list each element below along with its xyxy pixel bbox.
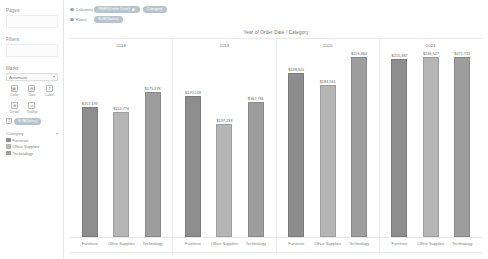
bar-2018-furniture[interactable] (82, 107, 98, 237)
rows-track[interactable]: SUM(Sales) (94, 16, 123, 23)
marks-label-button[interactable]: T Label (41, 84, 58, 98)
category-group-2019: FurnitureOffice SuppliesTechnology (173, 238, 276, 252)
legend-title-row: Category ▾ (6, 131, 58, 136)
pages-shelf[interactable]: Pages (6, 8, 58, 28)
columns-label: Columns (76, 7, 93, 12)
palette-icon: ▦ (11, 85, 18, 92)
pill-category[interactable]: Category (143, 6, 167, 13)
bar-value-label: $198,901 (288, 67, 304, 72)
marks-detail-label: Detail (10, 110, 19, 114)
worksheet-canvas: Columns YEAR(Order Date) Category Rows (64, 0, 488, 259)
bar-group-2021: $215,387$246,527$271,731 (380, 51, 482, 237)
marks-tooltip-button[interactable]: ▭ Tooltip (24, 101, 41, 115)
label-icon: T (46, 85, 53, 92)
pill-dropdown-icon[interactable] (132, 8, 135, 11)
marks-color-label: Color (10, 93, 19, 97)
bar-group-2020: $198,901$183,531$226,364 (277, 51, 380, 237)
year-header-2019: 2019 (173, 39, 276, 51)
marks-tooltip-label: Tooltip (27, 110, 37, 114)
bar-value-label: $162,781 (248, 96, 264, 101)
mark-type-dropdown[interactable]: Automatic ▾ (6, 73, 58, 81)
bar-wrap: $198,901 (281, 51, 312, 237)
legend-item-technology[interactable]: Technology (6, 151, 58, 156)
category-axis-row: FurnitureOffice SuppliesTechnologyFurnit… (70, 237, 482, 252)
bar-wrap: $246,527 (415, 51, 446, 237)
bar-value-label: $215,387 (392, 53, 408, 58)
marks-size-button[interactable]: ▤ Size (24, 84, 41, 98)
bars-area: $157,193$151,776$175,278$170,518$137,233… (70, 51, 482, 237)
bar-value-label: $183,531 (320, 79, 336, 84)
bar-value-label: $157,193 (82, 101, 98, 106)
bar-2021-furniture[interactable] (391, 59, 407, 237)
bar-value-label: $226,364 (351, 51, 367, 56)
bar-2021-office-supplies[interactable] (423, 57, 439, 237)
tooltip-icon: ▭ (28, 102, 35, 109)
bar-wrap: $157,193 (74, 51, 105, 237)
marks-label: Marks (6, 66, 58, 71)
marks-label-label: Label (45, 93, 54, 97)
bar-2019-technology[interactable] (248, 102, 264, 237)
category-tick-label: Furniture (74, 238, 105, 252)
columns-track[interactable]: YEAR(Order Date) Category (94, 6, 167, 13)
rows-shelf-name: Rows (70, 17, 90, 22)
bar-wrap: $183,531 (312, 51, 343, 237)
legend-item-office-supplies[interactable]: Office Supplies (6, 144, 58, 149)
bar-wrap: $226,364 (343, 51, 374, 237)
filters-shelf[interactable]: Filters (6, 37, 58, 57)
pill-year-order-date-text: YEAR(Order Date) (98, 7, 130, 12)
bar-value-label: $137,233 (216, 118, 232, 123)
legend-swatch (6, 138, 11, 143)
bar-2020-office-supplies[interactable] (320, 85, 336, 237)
pill-year-order-date[interactable]: YEAR(Order Date) (94, 6, 140, 13)
tableau-worksheet: Pages Filters Marks Automatic ▾ ▦ Color … (0, 0, 488, 259)
mark-type-value: Automatic (9, 75, 28, 80)
legend-item-furniture[interactable]: Furniture (6, 138, 58, 143)
category-tick-label: Technology (137, 238, 168, 252)
category-tick-label: Technology (447, 238, 478, 252)
pill-sum-sales-text: SUM(Sales) (98, 17, 118, 22)
rows-shelf[interactable]: Rows SUM(Sales) (70, 16, 482, 23)
shelves-area: Columns YEAR(Order Date) Category Rows (64, 0, 488, 28)
bar-2019-office-supplies[interactable] (216, 124, 232, 237)
category-legend: Category ▾ Furniture Office Supplies Tec… (6, 131, 58, 156)
bar-wrap: $175,278 (137, 51, 168, 237)
columns-shelf-name: Columns (70, 7, 90, 12)
bar-value-label: $246,527 (423, 51, 439, 56)
bar-2020-technology[interactable] (351, 57, 367, 237)
category-tick-label: Office Supplies (105, 238, 136, 252)
bar-wrap: $170,518 (177, 51, 208, 237)
marks-color-button[interactable]: ▦ Color (6, 84, 23, 98)
marks-card: Marks Automatic ▾ ▦ Color ▤ Size T Label (6, 66, 58, 125)
legend-item-label: Office Supplies (13, 144, 40, 149)
category-group-2020: FurnitureOffice SuppliesTechnology (277, 238, 380, 252)
pill-sum-sales[interactable]: SUM(Sales) (94, 16, 123, 23)
filters-well[interactable] (6, 44, 58, 57)
marks-sum-sales-pill[interactable]: SUM(Sales) (14, 118, 41, 125)
rows-bullet-icon (70, 18, 74, 22)
category-tick-label: Furniture (281, 238, 312, 252)
legend-item-label: Technology (13, 151, 33, 156)
chart-title: Year of Order Date / Category (64, 30, 488, 35)
filters-label: Filters (6, 37, 58, 42)
category-tick-label: Furniture (177, 238, 208, 252)
detail-icon: ⊞ (11, 102, 18, 109)
text-icon: T (6, 118, 12, 124)
category-group-2021: FurnitureOffice SuppliesTechnology (380, 238, 482, 252)
year-header-row: 2018201920202021 (70, 39, 482, 51)
bar-2020-furniture[interactable] (288, 73, 304, 237)
bar-2019-furniture[interactable] (185, 96, 201, 237)
pages-well[interactable] (6, 15, 58, 28)
legend-item-label: Furniture (13, 138, 29, 143)
bar-wrap: $271,731 (447, 51, 478, 237)
marks-detail-button[interactable]: ⊞ Detail (6, 101, 23, 115)
bar-group-2019: $170,518$137,233$162,781 (173, 51, 276, 237)
marks-buttons-row-2: ⊞ Detail ▭ Tooltip (6, 101, 58, 115)
bar-2021-technology[interactable] (454, 57, 470, 237)
marks-sum-sales-pill-row[interactable]: T SUM(Sales) (6, 118, 58, 125)
bar-2018-office-supplies[interactable] (113, 112, 129, 237)
legend-menu-icon[interactable]: ▾ (56, 131, 58, 136)
left-panel: Pages Filters Marks Automatic ▾ ▦ Color … (0, 0, 64, 259)
columns-shelf[interactable]: Columns YEAR(Order Date) Category (70, 6, 482, 13)
bar-2018-technology[interactable] (145, 92, 161, 237)
year-header-2021: 2021 (380, 39, 482, 51)
